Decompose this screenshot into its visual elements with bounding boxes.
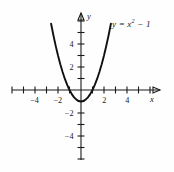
- graph-figure: −4 −2 2 4 4 2 −2 −4 x y y = x2 − 1: [0, 0, 174, 172]
- y-tick-label-minus2: −2: [65, 109, 74, 118]
- y-tick-label-4: 4: [69, 40, 73, 49]
- equation-tail: − 1: [135, 19, 151, 29]
- x-tick-label-minus4: −4: [30, 96, 39, 105]
- x-axis-label: x: [149, 94, 154, 104]
- x-tick-label-minus2: −2: [53, 96, 62, 105]
- x-tick-label-2: 2: [102, 96, 106, 105]
- y-axis: [78, 13, 84, 160]
- y-axis-label: y: [86, 11, 91, 21]
- y-tick-label-minus4: −4: [65, 132, 74, 141]
- equation-label: y = x2 − 1: [112, 17, 151, 29]
- x-axis: [12, 87, 160, 93]
- y-tick-label-2: 2: [69, 63, 73, 72]
- equation-label-text: y = x: [112, 19, 132, 29]
- x-tick-label-4: 4: [125, 96, 129, 105]
